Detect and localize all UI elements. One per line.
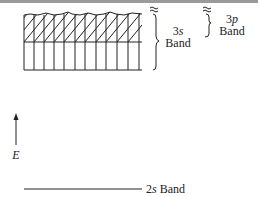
label-3s-word: Band (160, 37, 196, 49)
energy-axis-label: E (10, 149, 22, 161)
energy-arrow (14, 113, 19, 145)
break-symbol-3p (203, 7, 211, 12)
label-3p-word: Band (214, 25, 250, 37)
brace-3s (150, 7, 159, 70)
label-2s-letter: s (152, 182, 157, 196)
wavy-top-edge (24, 12, 142, 15)
break-symbol-3s (150, 7, 158, 12)
label-2s-word: Band (160, 182, 185, 196)
label-3s-band: 3s Band (160, 25, 196, 49)
label-2s-band: 2s Band (146, 183, 185, 195)
brace-3p (203, 7, 211, 37)
band-box (4, 8, 156, 70)
label-3p-band: 3p Band (214, 13, 250, 37)
arrow-head-icon (14, 113, 19, 120)
